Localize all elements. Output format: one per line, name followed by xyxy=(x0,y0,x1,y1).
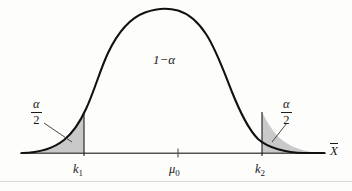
left-alpha-over-two-label: α 2 xyxy=(31,98,42,127)
right-alpha-numerator: α xyxy=(281,98,292,111)
critical-value-k1-label: k1 xyxy=(73,163,83,178)
acceptance-region-label: 1−α xyxy=(153,53,175,66)
mean-mu0-label: μ0 xyxy=(169,163,180,178)
left-alpha-numerator: α xyxy=(31,98,42,111)
k1-subscript: 1 xyxy=(79,168,84,178)
right-alpha-over-two-label: α 2 xyxy=(281,98,292,127)
mu-subscript: 0 xyxy=(175,168,180,178)
x-bar-symbol: X xyxy=(330,142,338,157)
left-alpha-leader-line xyxy=(44,123,72,142)
right-alpha-denominator: 2 xyxy=(281,114,292,127)
k2-subscript: 2 xyxy=(261,168,266,178)
left-alpha-denominator: 2 xyxy=(31,114,42,127)
x-axis-label: X xyxy=(330,142,338,157)
normal-density-curve xyxy=(22,9,324,153)
critical-value-k2-label: k2 xyxy=(255,163,265,178)
figure-container: α 2 α 2 1−α k1 μ0 k2 X xyxy=(0,0,352,191)
